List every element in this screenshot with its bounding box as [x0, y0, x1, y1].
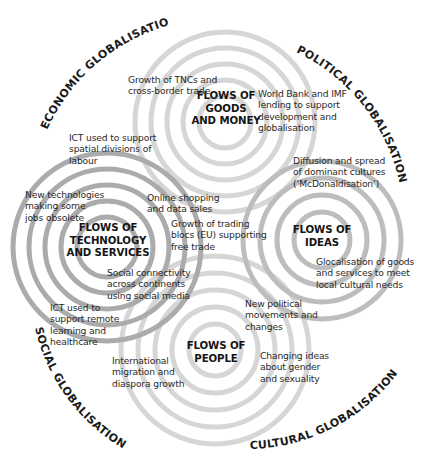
label-international-migration: International migration and diaspora gro… [112, 355, 184, 389]
label-trading-blocs: Growth of trading blocs (EU) supporting … [171, 218, 267, 252]
economic-globalisation-title: ECONOMIC GLOBALISATION [0, 0, 170, 131]
hub-technology-and-services: FLOWS OF TECHNOLOGY AND SERVICES [62, 222, 154, 260]
label-ict-spatial-divisions: ICT used to support spatial divisions of… [69, 132, 156, 166]
hub-ideas: FLOWS OF IDEAS [282, 224, 362, 249]
label-social-connectivity: Social connectivity across continents us… [107, 267, 191, 301]
label-glocalisation: Glocalisation of goods and services to m… [316, 256, 414, 290]
label-diffusion-cultures: Diffusion and spread of dominant culture… [293, 155, 385, 189]
label-gender-sexuality: Changing ideas about gender and sexualit… [260, 350, 329, 384]
label-online-shopping: Online shopping and data sales [147, 192, 219, 215]
label-new-technologies: New technologies making some jobs obsole… [25, 189, 104, 223]
label-world-bank-imf: World Bank and IMF lending to support de… [258, 88, 347, 133]
hub-people: FLOWS OF PEOPLE [176, 340, 256, 365]
label-tncs-growth: Growth of TNCs and cross-border trade [128, 74, 217, 97]
label-ict-remote-learning: ICT used to support remote learning and … [50, 302, 119, 347]
label-political-movements: New political movements and changes [245, 298, 318, 332]
